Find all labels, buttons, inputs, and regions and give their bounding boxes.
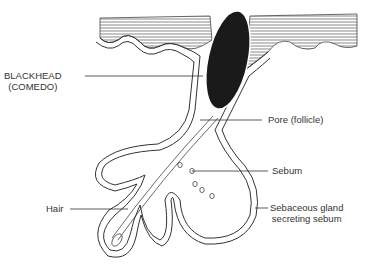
gland-label-line2: secreting sebum — [270, 213, 343, 224]
sebum-label: Sebum — [272, 165, 302, 176]
skin-cross-section — [0, 0, 377, 266]
gland-label-line1: Sebaceous gland — [270, 202, 343, 213]
blackhead-diagram: BLACKHEAD (COMEDO) Pore (follicle) Sebum… — [0, 0, 377, 266]
epidermis-left — [100, 16, 212, 49]
blackhead-label: BLACKHEAD (COMEDO) — [4, 70, 62, 92]
sebaceous-gland-label: Sebaceous gland secreting sebum — [270, 202, 343, 224]
pore-label: Pore (follicle) — [268, 114, 323, 125]
blackhead-label-line1: BLACKHEAD — [4, 70, 62, 81]
leader-lines — [70, 76, 268, 209]
epidermis-right — [245, 14, 357, 70]
sebum-droplets — [178, 162, 214, 198]
blackhead-label-line2: (COMEDO) — [4, 81, 62, 92]
hair-label: Hair — [46, 203, 63, 214]
